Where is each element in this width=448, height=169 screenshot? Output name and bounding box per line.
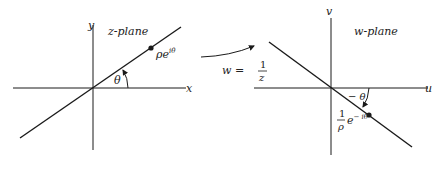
z-point-label-sup: iθ — [169, 47, 176, 55]
mapping-label-num: 1 — [260, 59, 266, 70]
w-point-label-exp: e− iθ — [347, 113, 369, 127]
z-plane: x y z-plane ρeiθ θ — [13, 19, 193, 150]
w-u-axis-label: u — [425, 82, 432, 95]
w-point-label-num: 1 — [339, 108, 345, 119]
w-point-label-sup: − iθ — [354, 113, 369, 121]
mapping-arrow-curve — [201, 46, 254, 57]
conformal-mapping-diagram: x y z-plane ρeiθ θ w = 1 z u v w-plane −… — [0, 0, 448, 169]
z-x-axis-label: x — [186, 82, 193, 95]
z-angle-arc — [123, 70, 128, 88]
z-angle-label: θ — [114, 74, 121, 87]
mapping-label-den: z — [258, 72, 265, 83]
z-ray-line — [20, 27, 181, 138]
w-plane: u v w-plane − θ 1 ρ e− iθ — [254, 5, 432, 155]
z-plane-title: z-plane — [107, 25, 149, 38]
w-plane-title: w-plane — [354, 25, 398, 38]
w-point-label-den: ρ — [337, 121, 344, 132]
w-v-axis-label: v — [326, 5, 333, 18]
z-y-axis-label: y — [87, 19, 95, 32]
mapping-arrow: w = 1 z — [201, 46, 267, 83]
z-point-label: ρeiθ — [155, 47, 176, 61]
z-plane-title-text: z-plane — [107, 25, 149, 38]
z-point-marker — [148, 45, 153, 50]
z-point-label-base: ρe — [155, 48, 169, 61]
mapping-label-lhs: w = — [222, 64, 244, 77]
w-angle-label: − θ — [348, 91, 366, 102]
